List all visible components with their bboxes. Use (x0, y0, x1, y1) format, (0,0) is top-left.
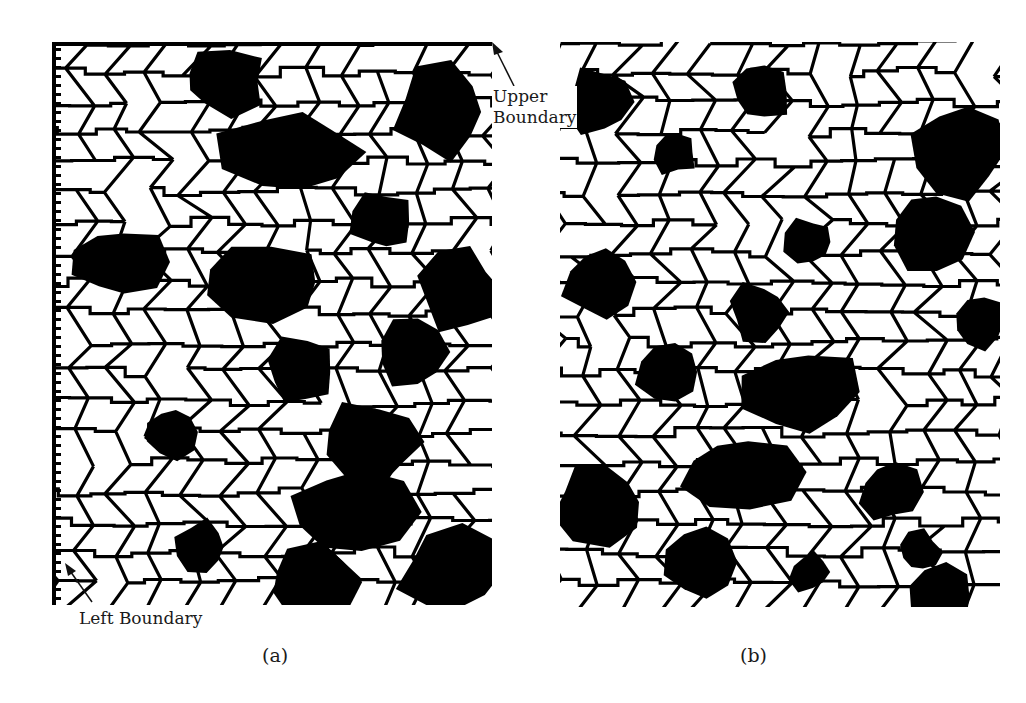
panel-a-grain-map (52, 42, 492, 605)
caption-b: (b) (740, 644, 767, 666)
left-boundary-label: Left Boundary (78, 608, 203, 629)
upper-boundary-arrow-icon (488, 40, 518, 90)
upper-boundary-label: Upper Boundary (492, 86, 577, 128)
grain-map-b (560, 42, 1000, 607)
grain-map-a (52, 42, 492, 605)
panel-b-grain-map (560, 42, 1000, 607)
caption-a: (a) (262, 644, 288, 666)
upper-boundary-label-line2: Boundary (493, 107, 576, 128)
upper-boundary-label-line1: Upper (493, 86, 576, 107)
left-boundary-arrow-icon (62, 560, 96, 606)
